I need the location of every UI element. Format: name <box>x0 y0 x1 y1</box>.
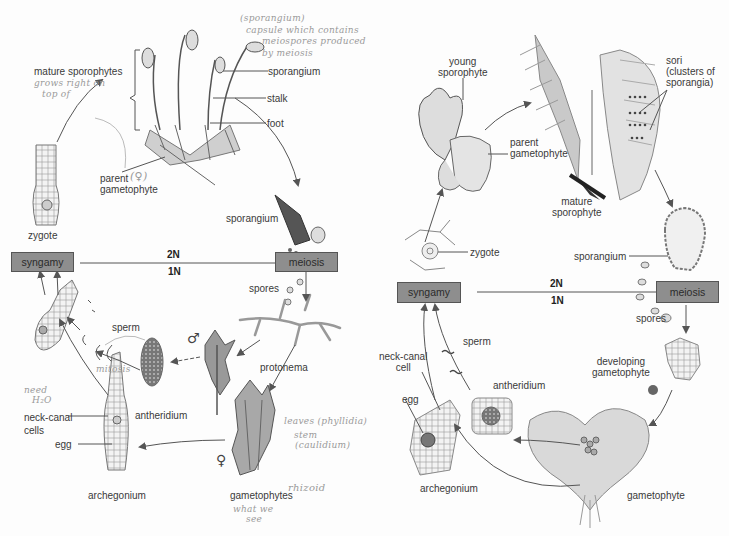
moss-sporangium-capsule <box>275 195 325 255</box>
label-antheridium-fern: antheridium <box>493 380 545 391</box>
moss-zygote-illustration <box>33 145 59 225</box>
note-sporangium-2: capsule which contains <box>246 26 359 35</box>
label-sporangium-top: sporangium <box>268 66 320 77</box>
label-foot: foot <box>267 118 284 129</box>
label-sperm-moss: sperm <box>112 322 140 333</box>
fern-gametophyte-illustration <box>528 409 649 528</box>
note-female-mark: (♀) <box>130 172 148 181</box>
note-sporangium-3: meiospores produced <box>262 37 366 46</box>
label-developing-gametophyte: developing gametophyte <box>592 356 650 378</box>
male-symbol-icon: ♂ <box>187 330 200 346</box>
note-sporangium-1: (sporangium) <box>240 14 305 23</box>
bracket <box>130 50 140 130</box>
label-egg-moss: egg <box>55 439 72 450</box>
note-what-we-see-1: what we <box>233 505 273 514</box>
moss-mature-sporophytes-illustration <box>142 30 264 185</box>
moss-female-gametophytes <box>232 380 275 475</box>
label-zygote-moss: zygote <box>28 230 57 241</box>
diagram-graphics <box>0 0 729 536</box>
note-grows-1: grows right on <box>34 79 105 88</box>
label-gametophyte-fern: gametophyte <box>627 490 685 501</box>
note-grows-2: top of <box>42 90 70 99</box>
note-stem-2: (caulidium) <box>295 441 350 450</box>
fern-ploidy-2n: 2N <box>550 278 563 289</box>
label-zygote-fern: zygote <box>470 247 499 258</box>
fern-developing-gametophyte-illustration <box>648 338 700 395</box>
moss-fertilized-archegonium <box>35 280 78 350</box>
female-symbol-icon: ♀ <box>216 452 226 468</box>
fern-syngamy-box: syngamy <box>397 282 461 303</box>
label-egg-fern: egg <box>402 394 419 405</box>
moss-syngamy-box: syngamy <box>11 252 74 272</box>
label-gametophytes-moss: gametophytes <box>230 490 293 501</box>
label-parent-gametophyte-fern: parent gametophyte <box>510 137 568 159</box>
label-spores-moss: spores <box>249 283 279 294</box>
label-archegonium-moss: archegonium <box>88 490 146 501</box>
fern-young-sporophyte-illustration <box>419 88 492 191</box>
label-antheridium-moss: antheridium <box>135 410 187 421</box>
note-need-water-1: need <box>24 386 47 395</box>
moss-ploidy-1n: 1N <box>168 266 181 277</box>
label-archegonium-fern: archegonium <box>420 483 478 494</box>
moss-ploidy-2n: 2N <box>167 249 180 260</box>
label-stalk: stalk <box>267 93 288 104</box>
label-spores-fern: spores <box>636 313 666 324</box>
moss-meiosis-box: meiosis <box>275 252 338 272</box>
moss-male-gametophyte <box>205 330 235 415</box>
moss-antheridium-illustration <box>141 338 163 386</box>
label-neck-canal-cell: neck-canal cell <box>379 351 427 373</box>
note-stem-1: stem <box>294 431 317 440</box>
note-sporangium-4: by meiosis <box>262 49 313 58</box>
moss-spores <box>285 279 303 305</box>
label-mature-sporophyte: mature sporophyte <box>552 196 601 218</box>
life-cycle-diagram: syngamy meiosis 2N 1N mature sporophytes… <box>0 0 729 536</box>
label-sporangium-capsule: sporangium <box>226 213 278 224</box>
note-need-water-2: H₂O <box>32 396 52 405</box>
label-neck-canal-cells: neck-canal cells <box>24 411 72 437</box>
label-mature-sporophytes: mature sporophytes <box>34 66 122 77</box>
fern-mature-sporophyte-illustration <box>520 35 660 200</box>
label-protonema: protonema <box>260 362 308 373</box>
fern-archegonium-illustration <box>410 400 460 475</box>
label-sporangium-fern: sporangium <box>574 251 626 262</box>
moss-sperm-illustration <box>83 300 112 362</box>
label-sori: sori (clusters of sporangia) <box>666 55 715 88</box>
fern-ploidy-1n: 1N <box>551 295 564 306</box>
note-leaves: leaves (phyllidia) <box>284 417 367 426</box>
note-what-we-see-2: see <box>246 515 262 524</box>
fern-meiosis-box: meiosis <box>656 281 719 303</box>
note-mitosis: mitosis <box>96 365 131 374</box>
label-parent-gametophyte: parent gametophyte <box>100 173 158 195</box>
fern-antheridium-illustration <box>472 398 512 434</box>
label-young-sporophyte: young sporophyte <box>438 56 487 78</box>
label-sperm-fern: sperm <box>463 336 491 347</box>
note-rhizoid: rhizoid <box>288 483 325 492</box>
handwritten-arrow <box>95 118 126 168</box>
fern-sporangium-illustration <box>665 208 705 270</box>
